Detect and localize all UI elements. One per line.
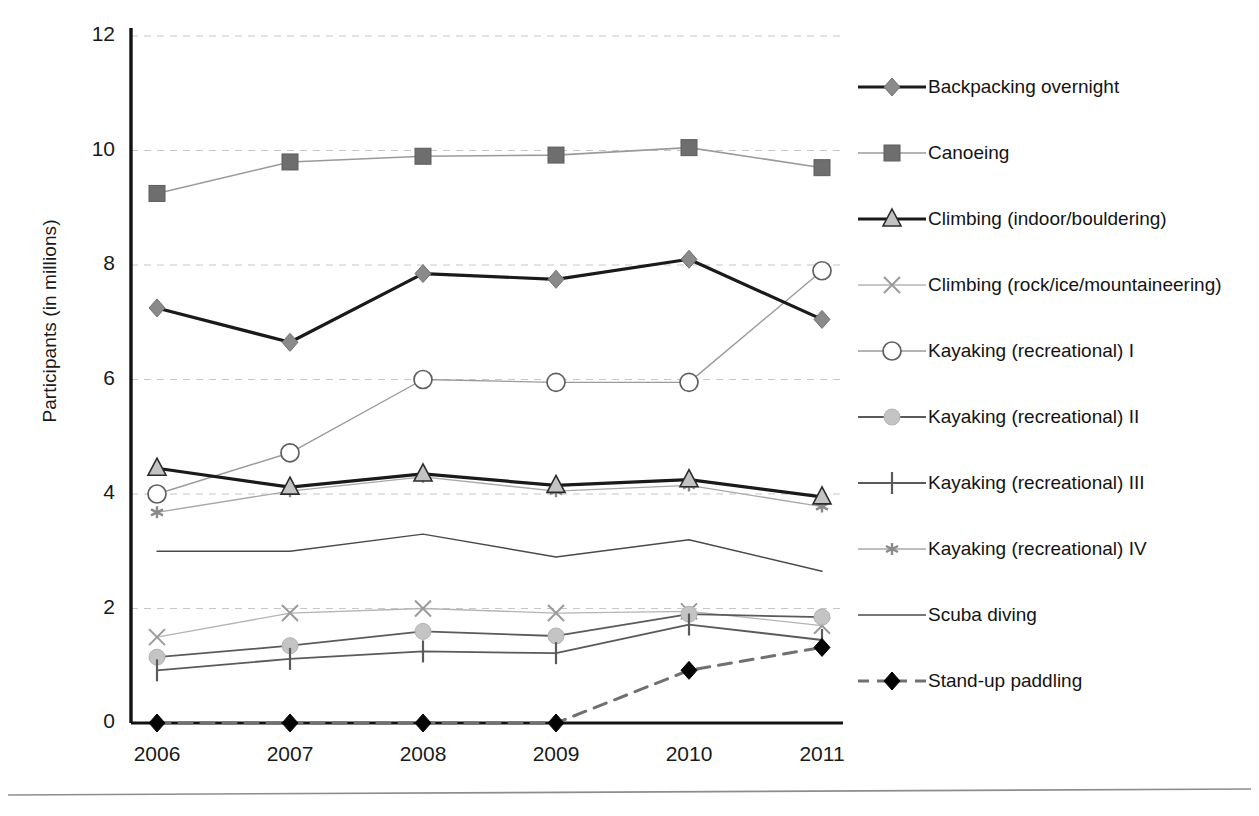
series-climbing-rock-ice-mountaineering — [149, 601, 830, 646]
x-tick-label: 2006 — [102, 742, 212, 766]
data-point-marker — [814, 160, 830, 176]
data-point-marker — [282, 154, 298, 170]
legend-item-kayaking-recreational-iv[interactable]: Kayaking (recreational) IV — [856, 516, 1256, 582]
data-point-marker — [148, 485, 166, 503]
legend-item-stand-up-paddling[interactable]: Stand-up paddling — [856, 648, 1256, 714]
x-tick-label: 2011 — [767, 742, 877, 766]
data-point-marker — [149, 629, 165, 645]
data-point-marker — [680, 373, 698, 391]
series-kayaking-recreational-iii — [157, 614, 822, 682]
series-line — [157, 468, 822, 497]
y-tick-label: 12 — [55, 22, 115, 46]
data-point-marker — [282, 714, 298, 732]
page-rule — [8, 789, 1251, 795]
legend-label: Canoeing — [928, 142, 1009, 164]
series-kayaking-recreational-i — [148, 262, 831, 503]
series-canoeing — [149, 140, 830, 202]
legend-item-kayaking-recreational-iii[interactable]: Kayaking (recreational) III — [856, 450, 1256, 516]
data-point-marker — [883, 342, 901, 360]
y-axis-label: Participants (in millions) — [39, 181, 61, 461]
legend-item-kayaking-recreational-ii[interactable]: Kayaking (recreational) II — [856, 384, 1256, 450]
data-point-marker — [149, 714, 165, 732]
data-point-marker — [548, 628, 564, 644]
y-tick-label: 0 — [55, 709, 115, 733]
data-point-marker — [681, 661, 697, 679]
data-point-marker — [681, 140, 697, 156]
data-point-marker — [547, 373, 565, 391]
series-kayaking-recreational-ii — [149, 606, 830, 665]
legend-label: Kayaking (recreational) III — [928, 472, 1145, 494]
legend-item-scuba-diving[interactable]: Scuba diving — [856, 582, 1256, 648]
y-tick-label: 2 — [55, 595, 115, 619]
chart-legend: Backpacking overnightCanoeingClimbing (i… — [856, 54, 1256, 714]
data-point-marker — [414, 371, 432, 389]
data-point-marker — [148, 458, 166, 475]
data-point-marker — [281, 444, 299, 462]
data-point-marker — [814, 609, 830, 625]
legend-label: Climbing (rock/ice/mountaineering) — [928, 274, 1222, 296]
y-tick-label: 10 — [55, 137, 115, 161]
data-point-marker — [814, 310, 830, 328]
data-point-marker — [282, 333, 298, 351]
legend-marker-icon — [856, 138, 928, 168]
series-line — [157, 271, 822, 494]
legend-label: Stand-up paddling — [928, 670, 1082, 692]
data-point-marker — [548, 714, 564, 732]
legend-item-backpacking-overnight[interactable]: Backpacking overnight — [856, 54, 1256, 120]
legend-marker-icon — [856, 468, 928, 498]
legend-label: Backpacking overnight — [928, 76, 1119, 98]
legend-label: Kayaking (recreational) II — [928, 406, 1139, 428]
legend-marker-icon — [856, 270, 928, 300]
data-point-marker — [884, 78, 900, 96]
data-point-marker — [415, 623, 431, 639]
data-point-marker — [415, 148, 431, 164]
data-point-marker — [813, 262, 831, 280]
x-tick-label: 2009 — [501, 742, 611, 766]
legend-marker-icon — [856, 72, 928, 102]
x-tick-label: 2007 — [235, 742, 345, 766]
legend-item-kayaking-recreational-i[interactable]: Kayaking (recreational) I — [856, 318, 1256, 384]
legend-item-canoeing[interactable]: Canoeing — [856, 120, 1256, 186]
x-tick-label: 2008 — [368, 742, 478, 766]
legend-marker-icon — [856, 336, 928, 366]
legend-marker-icon — [856, 600, 928, 630]
data-point-marker — [415, 265, 431, 283]
chart-page: Participants (in millions) 121086420 200… — [0, 0, 1259, 816]
series-line — [157, 259, 822, 342]
data-point-marker — [149, 299, 165, 317]
legend-marker-icon — [856, 402, 928, 432]
legend-item-climbing-rock-ice-mountaineering[interactable]: Climbing (rock/ice/mountaineering) — [856, 252, 1256, 318]
data-point-marker — [884, 672, 900, 690]
legend-label: Scuba diving — [928, 604, 1037, 626]
x-tick-label: 2010 — [634, 742, 744, 766]
series-line — [157, 148, 822, 194]
y-tick-label: 6 — [55, 366, 115, 390]
y-tick-label: 4 — [55, 480, 115, 504]
legend-marker-icon — [856, 534, 928, 564]
series-line — [157, 534, 822, 571]
data-point-marker — [680, 470, 698, 487]
data-point-marker — [884, 409, 900, 425]
legend-marker-icon — [856, 204, 928, 234]
data-point-marker — [548, 147, 564, 163]
legend-item-climbing-indoor-bouldering[interactable]: Climbing (indoor/bouldering) — [856, 186, 1256, 252]
data-point-marker — [415, 714, 431, 732]
data-point-marker — [884, 145, 900, 161]
legend-label: Climbing (indoor/bouldering) — [928, 208, 1167, 230]
series-scuba-diving — [157, 534, 822, 571]
series-line — [157, 647, 822, 723]
legend-label: Kayaking (recreational) I — [928, 340, 1134, 362]
data-point-marker — [149, 185, 165, 201]
series-line — [157, 614, 822, 657]
data-point-marker — [414, 464, 432, 481]
data-point-marker — [548, 270, 564, 288]
legend-label: Kayaking (recreational) IV — [928, 538, 1147, 560]
legend-marker-icon — [856, 666, 928, 696]
data-point-marker — [814, 638, 830, 656]
y-tick-label: 8 — [55, 251, 115, 275]
